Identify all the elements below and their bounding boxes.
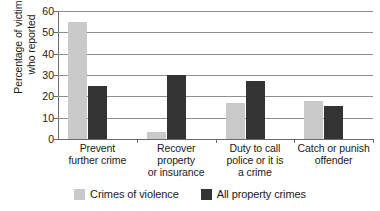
bar-0[interactable] <box>68 22 87 139</box>
bar-group <box>294 11 373 139</box>
bar-group <box>58 11 137 139</box>
y-tick-label: 20 <box>32 91 54 102</box>
y-tick-label: 30 <box>32 70 54 81</box>
y-tick-label: 10 <box>32 113 54 124</box>
bar-0[interactable] <box>147 132 166 139</box>
bar-1[interactable] <box>324 106 343 139</box>
y-tick-label: 0 <box>32 134 54 145</box>
bar-group <box>137 11 216 139</box>
legend-label: All property crimes <box>217 188 306 200</box>
bars-layer <box>58 11 373 139</box>
legend-item[interactable]: Crimes of violence <box>74 188 179 200</box>
chart-legend: Crimes of violenceAll property crimes <box>0 188 380 200</box>
x-axis-category-labels: Prevent further crimeRecover property or… <box>58 142 373 184</box>
legend-item[interactable]: All property crimes <box>201 188 306 200</box>
y-axis-tick-labels: 6050403020100 <box>30 0 54 150</box>
x-tick-mark <box>373 139 374 143</box>
y-tick-label: 60 <box>32 6 54 17</box>
x-category-label: Recover property or insurance <box>137 142 216 178</box>
x-tick-mark <box>294 139 295 143</box>
y-tick-label: 40 <box>32 49 54 60</box>
y-tick-label: 50 <box>32 27 54 38</box>
x-tick-mark <box>137 139 138 143</box>
legend-label: Crimes of violence <box>90 188 179 200</box>
bar-0[interactable] <box>226 103 245 139</box>
legend-swatch-icon <box>201 189 212 200</box>
plot-area <box>58 11 373 139</box>
bar-chart: Percentage of victims who reported 60504… <box>0 0 380 211</box>
bar-1[interactable] <box>88 86 107 139</box>
legend-swatch-icon <box>74 189 85 200</box>
bar-0[interactable] <box>304 101 323 139</box>
x-category-label: Prevent further crime <box>58 142 137 166</box>
x-tick-mark <box>216 139 217 143</box>
bar-group <box>216 11 295 139</box>
x-category-label: Catch or punish offender <box>294 142 373 166</box>
y-tick-mark <box>54 139 58 140</box>
bar-1[interactable] <box>246 81 265 139</box>
bar-1[interactable] <box>167 75 186 139</box>
x-category-label: Duty to call police or it is a crime <box>216 142 295 178</box>
